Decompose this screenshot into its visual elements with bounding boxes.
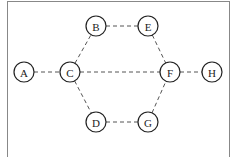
graph-canvas: ABCDEFGH [0,0,232,157]
node-g: G [138,112,158,132]
node-label: A [20,67,28,79]
edge-e-f [152,35,165,63]
edge-g-f [152,81,166,113]
node-d: D [86,112,106,132]
node-label: H [208,67,216,79]
node-f: F [160,62,180,82]
node-b: B [86,16,106,36]
node-c: C [60,62,80,82]
node-label: D [92,117,100,129]
node-label: C [66,67,73,79]
node-h: H [202,62,222,82]
node-label: B [92,21,99,33]
node-e: E [138,16,158,36]
edge-c-d [75,81,92,113]
nodes-layer: ABCDEFGH [14,16,222,132]
node-label: G [144,117,152,129]
node-label: F [167,67,173,79]
edge-c-b [75,35,91,64]
node-label: E [145,21,152,33]
node-a: A [14,62,34,82]
